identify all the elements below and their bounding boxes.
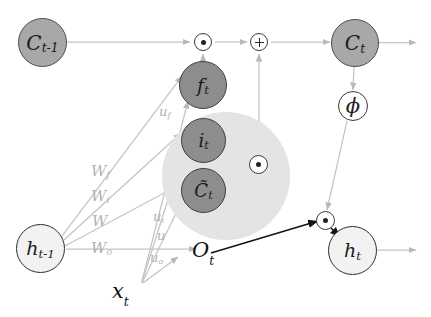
output-gate-label[interactable]: Ot xyxy=(192,240,214,265)
tanh-activation-node[interactable]: ϕ xyxy=(338,91,368,121)
previous-cell-state-label: Ct-1 xyxy=(26,33,58,53)
forget-gate-label: ft xyxy=(197,76,209,95)
weight-label-wf: Wf xyxy=(91,164,110,179)
input-gate-node[interactable]: it xyxy=(181,118,226,163)
input-block-halo xyxy=(162,112,290,240)
edge-ccurr-to-phi xyxy=(353,66,354,90)
input-vector-label[interactable]: xt xyxy=(112,281,129,306)
output-multiply-op[interactable] xyxy=(316,211,335,230)
input-gate-label: it xyxy=(198,132,208,150)
candidate-cell-state-label: C̃t xyxy=(194,182,212,200)
current-cell-state-label: Ct xyxy=(345,33,365,53)
phi-label: ϕ xyxy=(346,96,360,117)
multiply-dot-icon xyxy=(201,40,206,45)
lstm-diagram-canvas: Ct-1 Ct ft it C̃t ht-1 ht ϕ Ot xt Wf Wi … xyxy=(0,0,431,317)
weight-label-uo: uo xyxy=(150,251,163,264)
previous-cell-state-node[interactable]: Ct-1 xyxy=(18,18,67,67)
edge-phi-to-outputmul xyxy=(327,121,347,210)
forget-gate-node[interactable]: ft xyxy=(179,61,227,109)
plus-icon xyxy=(255,38,264,47)
weight-label-uc: u xyxy=(157,229,165,242)
current-hidden-state-label: ht xyxy=(344,241,361,260)
current-cell-state-node[interactable]: Ct xyxy=(331,19,379,67)
candidate-cell-state-node[interactable]: C̃t xyxy=(181,168,226,213)
weight-label-wo: Wo xyxy=(91,241,112,256)
state-add-op[interactable] xyxy=(250,33,268,51)
multiply-dot-icon xyxy=(323,218,328,223)
weight-label-uf: uf xyxy=(159,105,170,118)
weight-label-wi: Wi xyxy=(91,189,109,204)
multiply-dot-icon xyxy=(256,162,261,167)
weight-label-ui: ui xyxy=(153,210,164,223)
weight-label-wc: W xyxy=(92,214,107,229)
forget-multiply-op[interactable] xyxy=(194,33,212,51)
current-hidden-state-node[interactable]: ht xyxy=(328,226,377,275)
previous-hidden-state-label: ht-1 xyxy=(26,239,54,258)
previous-hidden-state-node[interactable]: ht-1 xyxy=(16,224,65,273)
input-multiply-op[interactable] xyxy=(249,155,268,174)
